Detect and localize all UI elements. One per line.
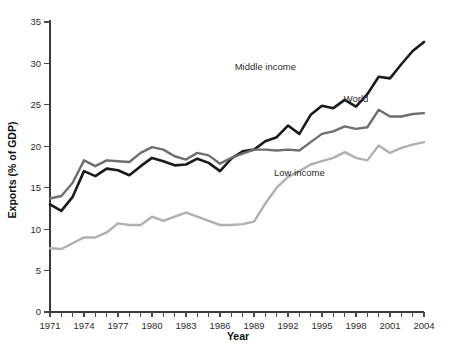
series-label-low-income: Low income	[274, 167, 325, 178]
y-tick-label: 5	[36, 265, 41, 276]
x-tick-label: 1995	[311, 320, 332, 331]
series-label-world: World	[344, 93, 369, 104]
y-tick-label: 20	[30, 141, 41, 152]
x-tick-label: 2001	[379, 320, 400, 331]
y-tick-label: 0	[36, 306, 41, 317]
y-axis-title: Exports (% of GDP)	[6, 122, 18, 219]
y-tick-label: 10	[30, 224, 41, 235]
series-annotations: Middle incomeWorldLow income	[235, 61, 369, 178]
series-line-low-income	[50, 142, 424, 249]
series-group	[50, 42, 424, 249]
y-tick-label: 35	[30, 16, 41, 27]
y-tick-label: 30	[30, 58, 41, 69]
x-tick-label: 1971	[39, 320, 60, 331]
chart-container: 05101520253035 1971197419771980198319861…	[0, 0, 450, 350]
x-axis-ticks: 1971197419771980198319861989199219951998…	[39, 312, 434, 331]
x-tick-label: 1992	[277, 320, 298, 331]
series-label-middle-income: Middle income	[235, 61, 296, 72]
x-tick-label: 1974	[73, 320, 94, 331]
x-tick-label: 1980	[141, 320, 162, 331]
x-tick-label: 1998	[345, 320, 366, 331]
line-chart: 05101520253035 1971197419771980198319861…	[0, 0, 450, 350]
y-tick-label: 25	[30, 99, 41, 110]
x-tick-label: 2004	[413, 320, 434, 331]
x-axis-title: Year	[227, 330, 249, 342]
y-axis-ticks: 05101520253035	[30, 16, 50, 317]
x-tick-label: 1977	[107, 320, 128, 331]
y-tick-label: 15	[30, 182, 41, 193]
x-tick-label: 1983	[175, 320, 196, 331]
